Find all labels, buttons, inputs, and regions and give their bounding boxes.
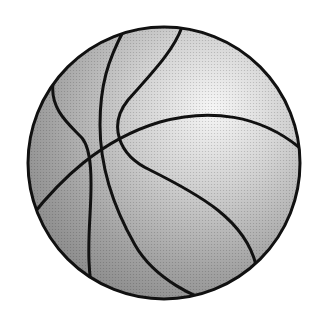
basketball-illustration (0, 0, 319, 324)
